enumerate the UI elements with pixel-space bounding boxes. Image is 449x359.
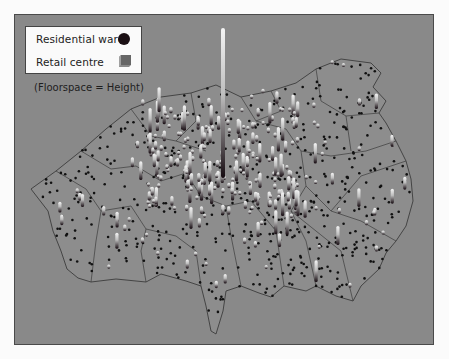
retail-centre-cube-icon	[119, 54, 131, 67]
legend-box: Residential ward Retail centre	[25, 26, 142, 74]
legend-label-retail-centre: Retail centre	[36, 56, 104, 68]
residential-ward-circle-icon	[118, 33, 130, 45]
floorspace-height-note: (Floorspace = Height)	[34, 82, 144, 93]
map-panel: Residential ward Retail centre (Floorspa…	[14, 14, 434, 345]
legend-label-residential-ward: Residential ward	[36, 33, 125, 45]
